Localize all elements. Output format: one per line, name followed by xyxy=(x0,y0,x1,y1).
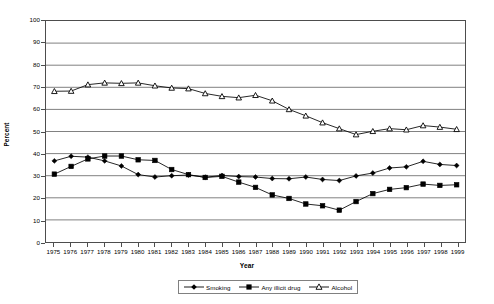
x-axis-tick-mark xyxy=(188,243,189,247)
x-axis-tick-label: 1997 xyxy=(417,248,431,255)
x-axis-tick-label: 1998 xyxy=(434,248,448,255)
x-axis-tick-mark xyxy=(458,243,459,247)
x-axis-tick-mark xyxy=(239,243,240,247)
x-axis-tick-mark xyxy=(272,243,273,247)
x-axis-tick-mark xyxy=(171,243,172,247)
plot-area xyxy=(45,20,466,243)
y-axis-tick-label: 0 xyxy=(36,240,40,246)
x-axis-tick-label: 1977 xyxy=(80,248,94,255)
x-axis-tick-mark xyxy=(70,243,71,247)
y-axis-tick-label: 90 xyxy=(33,39,40,45)
legend-label: Alcohol xyxy=(331,284,352,291)
x-axis-tick-label: 1975 xyxy=(47,248,61,255)
x-axis-tick-label: 1976 xyxy=(63,248,77,255)
x-axis-tick-mark xyxy=(441,243,442,247)
legend-marker-square-icon xyxy=(239,283,259,291)
legend-label: Any illicit drug xyxy=(261,284,300,291)
x-axis-tick-mark xyxy=(373,243,374,247)
x-axis-tick-mark xyxy=(222,243,223,247)
y-axis-tick-label: 30 xyxy=(33,173,40,179)
x-axis-tick-label: 1993 xyxy=(350,248,364,255)
x-axis-tick-label: 1992 xyxy=(333,248,347,255)
y-axis-title: Percent xyxy=(3,105,10,165)
x-axis-tick-mark xyxy=(154,243,155,247)
x-axis-tick-label: 1989 xyxy=(282,248,296,255)
x-axis-tick-mark xyxy=(121,243,122,247)
x-axis-tick-mark xyxy=(306,243,307,247)
x-axis: 1975197619771978197919801981198219831984… xyxy=(45,248,466,260)
x-axis-tick-mark xyxy=(53,243,54,247)
y-axis-tick-label: 10 xyxy=(33,218,40,224)
chart-figure: 0102030405060708090100 Percent 197519761… xyxy=(0,0,494,304)
x-axis-tick-label: 1996 xyxy=(400,248,414,255)
x-axis-tick-label: 1980 xyxy=(131,248,145,255)
x-axis-tick-label: 1985 xyxy=(215,248,229,255)
x-axis-tick-label: 1991 xyxy=(316,248,330,255)
x-axis-tick-label: 1983 xyxy=(181,248,195,255)
x-axis-tick-label: 1994 xyxy=(366,248,380,255)
x-axis-tick-mark xyxy=(87,243,88,247)
x-axis-tick-label: 1979 xyxy=(114,248,128,255)
y-axis-tick-label: 50 xyxy=(33,128,40,134)
x-axis-tick-label: 1982 xyxy=(164,248,178,255)
y-axis-tick-label: 60 xyxy=(33,106,40,112)
x-axis-tick-label: 1986 xyxy=(232,248,246,255)
x-axis-tick-mark xyxy=(323,243,324,247)
y-axis-tick-label: 80 xyxy=(33,61,40,67)
x-axis-tick-label: 1999 xyxy=(451,248,465,255)
chart-legend: SmokingAny illicit drugAlcohol xyxy=(178,280,358,294)
x-axis-tick-label: 1978 xyxy=(97,248,111,255)
x-axis-tick-label: 1990 xyxy=(299,248,313,255)
x-axis-tick-mark xyxy=(104,243,105,247)
legend-item-alcohol: Alcohol xyxy=(309,283,352,291)
x-axis-tick-mark xyxy=(256,243,257,247)
y-axis-tick-mark xyxy=(41,243,45,244)
legend-marker-triangle-icon xyxy=(309,283,329,291)
x-axis-tick-mark xyxy=(289,243,290,247)
x-axis-tick-mark xyxy=(205,243,206,247)
x-axis-tick-mark xyxy=(357,243,358,247)
x-axis-tick-label: 1984 xyxy=(198,248,212,255)
x-axis-tick-mark xyxy=(138,243,139,247)
x-axis-tick-label: 1981 xyxy=(148,248,162,255)
x-axis-tick-label: 1987 xyxy=(249,248,263,255)
x-axis-tick-mark xyxy=(340,243,341,247)
y-axis-tick-label: 40 xyxy=(33,151,40,157)
y-axis-tick-label: 20 xyxy=(33,195,40,201)
legend-marker-diamond-icon xyxy=(184,283,204,291)
x-axis-title: Year xyxy=(0,262,494,269)
legend-label: Smoking xyxy=(206,284,230,291)
data-series-layer xyxy=(46,21,465,242)
y-axis-tick-label: 100 xyxy=(29,17,40,23)
x-axis-tick-mark xyxy=(407,243,408,247)
legend-item-smoking: Smoking xyxy=(184,283,230,291)
y-axis-tick-label: 70 xyxy=(33,84,40,90)
x-axis-tick-mark xyxy=(424,243,425,247)
x-axis-tick-label: 1995 xyxy=(383,248,397,255)
x-axis-tick-label: 1988 xyxy=(265,248,279,255)
legend-item-any-illicit-drug: Any illicit drug xyxy=(239,283,300,291)
x-axis-tick-mark xyxy=(390,243,391,247)
